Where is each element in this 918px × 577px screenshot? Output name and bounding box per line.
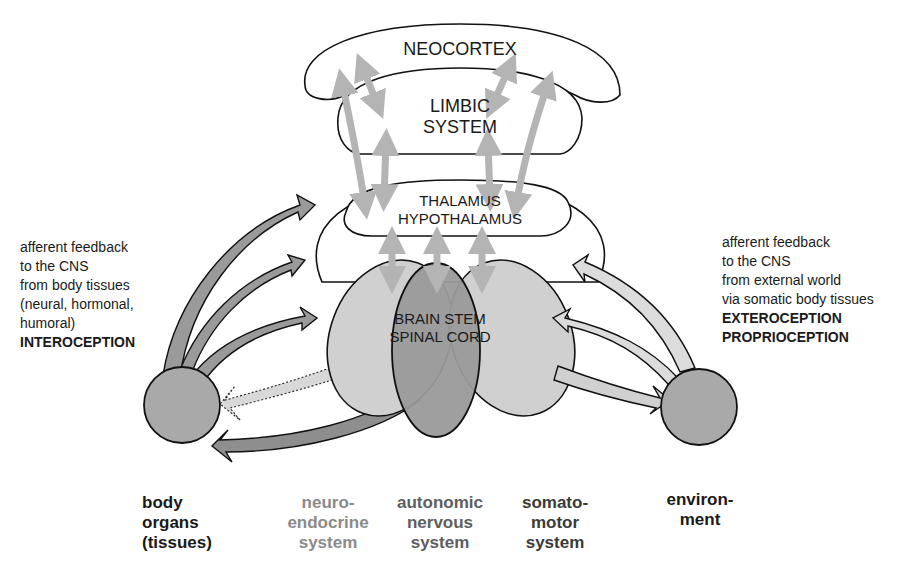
left-line-3: from body tissues bbox=[20, 276, 135, 295]
neocortex-text: NEOCORTEX bbox=[403, 39, 517, 59]
right-line-1: afferent feedback bbox=[722, 233, 874, 252]
body-organs-node bbox=[144, 367, 220, 443]
exteroception-annotation: afferent feedback to the CNS from extern… bbox=[722, 233, 874, 347]
interoception-arrows bbox=[163, 195, 317, 384]
body-organs-line-2: organs bbox=[142, 513, 212, 533]
thalamus-text: THALAMUS bbox=[370, 192, 550, 210]
somatomotor-line-3: system bbox=[505, 533, 605, 553]
autonomic-label: autonomic nervous system bbox=[380, 493, 500, 553]
brainstem-text: BRAIN STEM bbox=[370, 310, 510, 328]
autonomic-lobe bbox=[392, 263, 480, 437]
somatomotor-label: somato- motor system bbox=[505, 493, 605, 553]
proprioception-heading: PROPRIOCEPTION bbox=[722, 328, 874, 347]
brainstem-label: BRAIN STEM SPINAL CORD bbox=[370, 310, 510, 346]
somatomotor-line-2: motor bbox=[505, 513, 605, 533]
limbic-text-2: SYSTEM bbox=[390, 117, 530, 138]
somatomotor-line-1: somato- bbox=[505, 493, 605, 513]
spinalcord-text: SPINAL CORD bbox=[370, 328, 510, 346]
left-line-4: (neural, hormonal, bbox=[20, 295, 135, 314]
right-line-3: from external world bbox=[722, 271, 874, 290]
left-line-5: humoral) bbox=[20, 314, 135, 333]
neuroendocrine-arrow bbox=[220, 368, 332, 420]
left-line-2: to the CNS bbox=[20, 257, 135, 276]
neocortex-label: NEOCORTEX bbox=[380, 40, 540, 59]
right-line-2: to the CNS bbox=[722, 252, 874, 271]
body-organs-label: body organs (tissues) bbox=[142, 493, 212, 553]
autonomic-line-3: system bbox=[380, 533, 500, 553]
autonomic-line-2: nervous bbox=[380, 513, 500, 533]
interoception-annotation: afferent feedback to the CNS from body t… bbox=[20, 238, 135, 352]
body-organs-line-1: body bbox=[142, 493, 212, 513]
hypothalamus-text: HYPOTHALAMUS bbox=[370, 210, 550, 228]
limbic-text-1: LIMBIC bbox=[390, 96, 530, 117]
right-line-4: via somatic body tissues bbox=[722, 290, 874, 309]
neuroendocrine-line-2: endocrine bbox=[278, 513, 378, 533]
exteroception-heading: EXTEROCEPTION bbox=[722, 309, 874, 328]
environment-line-2: ment bbox=[655, 510, 745, 530]
neuroendocrine-line-1: neuro- bbox=[278, 493, 378, 513]
environment-line-1: environ- bbox=[655, 490, 745, 510]
neuroendocrine-line-3: system bbox=[278, 533, 378, 553]
body-organs-line-3: (tissues) bbox=[142, 533, 212, 553]
interoception-heading: INTEROCEPTION bbox=[20, 333, 135, 352]
autonomic-line-1: autonomic bbox=[380, 493, 500, 513]
environment-label: environ- ment bbox=[655, 490, 745, 530]
environment-node bbox=[661, 369, 737, 445]
left-line-1: afferent feedback bbox=[20, 238, 135, 257]
neuroendocrine-label: neuro- endocrine system bbox=[278, 493, 378, 553]
thalamus-label: THALAMUS HYPOTHALAMUS bbox=[370, 192, 550, 228]
limbic-label: LIMBIC SYSTEM bbox=[390, 96, 530, 138]
somatomotor-arrow bbox=[554, 366, 670, 414]
